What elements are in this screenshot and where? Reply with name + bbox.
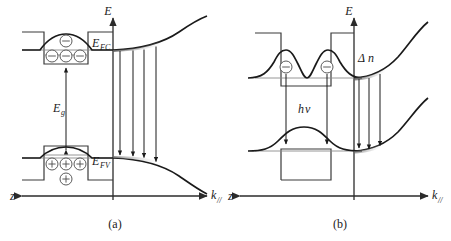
panel-a-energy-axis-label: E bbox=[103, 4, 112, 18]
eg-label: E bbox=[52, 101, 61, 115]
eg-label-sub: g bbox=[61, 108, 65, 117]
efc-label-sub: FC bbox=[99, 43, 111, 52]
electron-in-well-1 bbox=[46, 50, 58, 62]
delta-n-label-sub: n bbox=[368, 51, 374, 65]
hole-in-well-3 bbox=[74, 158, 86, 170]
efv-label: E bbox=[91, 154, 100, 168]
panel-b-electron-2 bbox=[321, 61, 333, 73]
band-diagram-figure: E z k // E FC E FV E g (a) bbox=[0, 0, 451, 241]
efv-label-sub: FV bbox=[99, 161, 111, 170]
hole-in-well-1 bbox=[46, 158, 58, 170]
photon-energy-label: h v bbox=[298, 102, 311, 116]
electron-above-well bbox=[60, 35, 72, 47]
hole-in-well-2 bbox=[60, 158, 72, 170]
electron-in-well-3 bbox=[74, 50, 86, 62]
hole-below-well bbox=[60, 173, 72, 185]
panel-a-k-axis-label-sub: // bbox=[216, 196, 222, 205]
panel-a-z-axis-label: z bbox=[9, 189, 15, 203]
panel-b-caption: (b) bbox=[333, 217, 347, 231]
panel-b-z-axis-label: z bbox=[227, 189, 233, 203]
panel-a-caption: (a) bbox=[108, 217, 121, 231]
hv-label: h bbox=[298, 102, 304, 116]
hv-label-sub: v bbox=[305, 102, 311, 116]
efc-label: E bbox=[91, 36, 100, 50]
panel-b-k-axis-label-sub: // bbox=[437, 196, 443, 205]
electron-in-well-2 bbox=[60, 50, 72, 62]
delta-n-label: Δ bbox=[357, 51, 365, 65]
panel-b-electron-1 bbox=[280, 61, 292, 73]
panel-b-energy-axis-label: E bbox=[344, 4, 353, 18]
